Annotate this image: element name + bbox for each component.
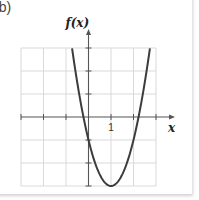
parabola-chart: 1 x f(x)	[0, 0, 199, 200]
axes	[21, 29, 175, 186]
y-axis-label: f(x)	[65, 16, 90, 30]
x-axis-arrow-icon	[169, 115, 175, 120]
x-axis-label: x	[167, 121, 176, 135]
x-tick-label: 1	[108, 122, 114, 133]
